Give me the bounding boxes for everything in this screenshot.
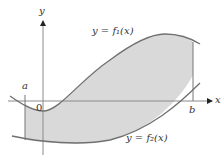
area-between-curves-diagram: y x 0 a b y = f₁(x) y = f₂(x)	[0, 0, 224, 158]
bound-a-label: a	[22, 80, 28, 91]
curve-f2-label: y = f₂(x)	[126, 132, 168, 143]
origin-label: 0	[36, 102, 42, 113]
y-axis-label: y	[39, 5, 45, 16]
curve-f1-label: y = f₁(x)	[92, 25, 134, 36]
x-axis-label: x	[215, 94, 221, 105]
bound-b-label: b	[189, 104, 195, 115]
diagram-canvas	[0, 0, 224, 158]
shaded-area	[25, 34, 193, 143]
